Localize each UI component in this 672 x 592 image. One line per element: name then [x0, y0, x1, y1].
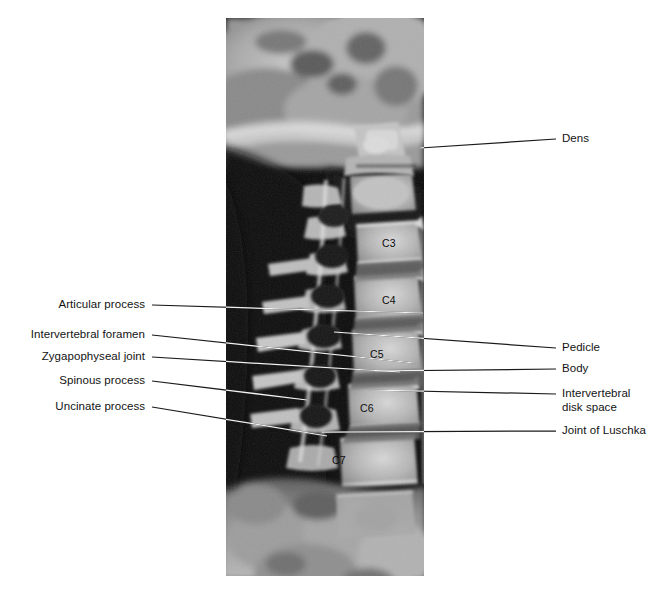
label-line: disk space [562, 401, 630, 415]
label-line: Articular process [59, 298, 146, 312]
label-articular-process: Articular process [59, 298, 146, 312]
label-uncinate-process: Uncinate process [55, 400, 145, 414]
figure-container: Articular processIntervertebral foramenZ… [0, 0, 672, 592]
vertebra-label-c7: C7 [332, 454, 346, 466]
label-spinous-process: Spinous process [59, 374, 145, 388]
label-line: Uncinate process [55, 400, 145, 414]
vertebra-label-c6: C6 [360, 402, 374, 414]
vertebra-label-c3: C3 [382, 237, 396, 249]
label-line: Spinous process [59, 374, 145, 388]
leader-line-dens [420, 139, 556, 148]
label-line: Dens [562, 132, 589, 146]
label-line: Pedicle [562, 341, 600, 355]
label-line: Joint of Luschka [562, 424, 646, 438]
label-intervertebral-disk-space: Intervertebraldisk space [562, 387, 630, 414]
label-pedicle: Pedicle [562, 341, 600, 355]
label-dens: Dens [562, 132, 589, 146]
label-line: Intervertebral foramen [31, 328, 145, 342]
label-zygapophyseal-joint: Zygapophyseal joint [42, 350, 145, 364]
label-line: Zygapophyseal joint [42, 350, 145, 364]
label-body: Body [562, 362, 588, 376]
vertebra-label-c5: C5 [370, 348, 384, 360]
label-intervertebral-foramen: Intervertebral foramen [31, 328, 145, 342]
label-joint-of-luschka: Joint of Luschka [562, 424, 646, 438]
vertebra-label-c4: C4 [382, 294, 396, 306]
label-line: Body [562, 362, 588, 376]
leader-line-dens [420, 139, 556, 148]
label-line: Intervertebral [562, 387, 630, 401]
